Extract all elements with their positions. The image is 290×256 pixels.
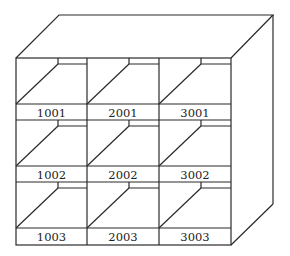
compartment-label-2001: 2001: [108, 106, 137, 120]
compartment-label-1002: 1002: [37, 168, 66, 182]
compartment-label-1003: 1003: [37, 230, 66, 244]
compartment-label-2002: 2002: [108, 168, 137, 182]
compartment-label-3003: 3003: [180, 230, 209, 244]
compartment-label-1001: 1001: [37, 106, 66, 120]
shelving-diagram: 1001 2001 3001 1002 2002 3002 1003 2003 …: [0, 0, 290, 256]
compartment-label-3001: 3001: [180, 106, 209, 120]
label-layer: 1001 2001 3001 1002 2002 3002 1003 2003 …: [0, 0, 290, 256]
compartment-label-2003: 2003: [108, 230, 137, 244]
compartment-label-3002: 3002: [180, 168, 209, 182]
